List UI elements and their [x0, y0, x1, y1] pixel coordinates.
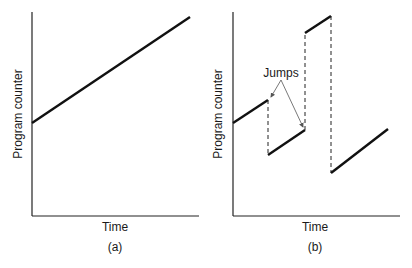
x-axis-label: Time: [302, 220, 329, 234]
panel-caption: (a): [108, 240, 123, 254]
pc-segment-1: [233, 100, 268, 123]
panel-a: Program counter Time (a): [11, 12, 199, 254]
pc-segment-2: [268, 130, 305, 155]
x-axis-label: Time: [102, 220, 129, 234]
program-counter-diagram: Program counter Time (a) Jumps Program c…: [0, 0, 412, 268]
jumps-annotation: Jumps: [263, 66, 298, 80]
y-axis-label: Program counter: [11, 69, 25, 158]
linear-pc-line: [32, 17, 190, 123]
arrow-to-jump-2: [281, 80, 303, 127]
pc-segment-4: [331, 129, 388, 173]
panel-caption: (b): [308, 240, 323, 254]
y-axis-label: Program counter: [211, 69, 225, 158]
panel-b: Jumps Program counter Time (b): [211, 12, 400, 254]
arrow-to-jump-1: [271, 80, 281, 97]
pc-segment-3: [305, 16, 331, 33]
